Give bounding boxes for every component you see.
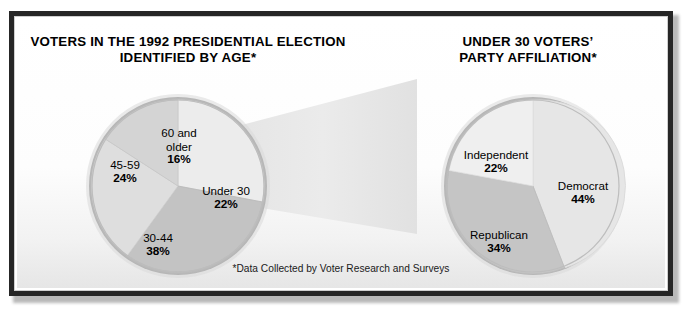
label-democrat-name: Democrat	[558, 179, 608, 192]
right-chart-title: UNDER 30 VOTERS’ PARTY AFFILIATION*	[403, 34, 653, 66]
label-30-44-pct: 38%	[125, 245, 191, 258]
left-chart-title: VOTERS IN THE 1992 PRESIDENTIAL ELECTION…	[23, 34, 353, 66]
label-under-30: Under 30 22%	[187, 171, 265, 225]
label-30-44-name: 30-44	[143, 231, 173, 244]
label-republican-name: Republican	[470, 228, 528, 241]
label-republican: Republican 34%	[457, 215, 541, 269]
label-45-59-name: 45-59	[110, 158, 140, 171]
source-footnote: *Data Collected by Voter Research and Su…	[17, 263, 665, 274]
chart-panel: VOTERS IN THE 1992 PRESIDENTIAL ELECTION…	[17, 19, 665, 288]
label-democrat-pct: 44%	[542, 193, 624, 206]
label-45-59-pct: 24%	[92, 172, 158, 185]
label-under-30-name: Under 30	[202, 184, 250, 197]
label-independent: Independent 22%	[444, 135, 548, 189]
label-independent-pct: 22%	[444, 162, 548, 175]
label-independent-name: Independent	[464, 148, 528, 161]
label-60-and-older-name: 60 and older	[161, 126, 196, 152]
label-democrat: Democrat 44%	[542, 166, 624, 220]
label-republican-pct: 34%	[457, 242, 541, 255]
label-under-30-pct: 22%	[187, 198, 265, 211]
figure-root: VOTERS IN THE 1992 PRESIDENTIAL ELECTION…	[0, 0, 685, 311]
label-45-59: 45-59 24%	[92, 145, 158, 199]
